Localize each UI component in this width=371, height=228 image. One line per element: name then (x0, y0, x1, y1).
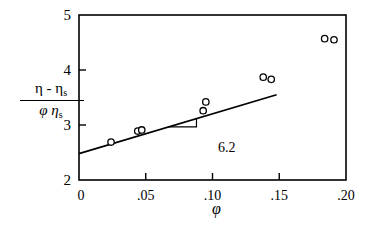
y-label-numerator-text: η - η (35, 80, 63, 96)
y-label-denominator: φ ηs (14, 101, 88, 120)
y-label-denominator-text: φ η (39, 102, 59, 118)
y-tick-label: 5 (64, 7, 72, 23)
data-point (203, 99, 209, 105)
x-tick-label: .05 (137, 188, 155, 203)
x-tick-label: 0 (78, 188, 85, 203)
y-tick-label: 2 (64, 172, 72, 188)
data-point (200, 108, 206, 114)
plot-frame (79, 15, 346, 180)
data-point (268, 76, 274, 82)
x-tick-label: .20 (337, 188, 355, 203)
data-point (108, 139, 114, 145)
data-point (331, 37, 337, 43)
data-point (260, 74, 266, 80)
data-point (321, 35, 327, 41)
y-label-numerator: η - ηs (14, 80, 88, 100)
x-tick-label: .15 (271, 188, 289, 203)
x-axis-label: φ (212, 200, 221, 218)
data-point (139, 127, 145, 133)
y-axis-label: η - ηs φ ηs (14, 80, 88, 120)
y-tick-label: 4 (64, 62, 72, 78)
y-label-denominator-sub: s (59, 109, 63, 120)
y-label-numerator-sub: s (63, 87, 67, 98)
slope-annotation: 6.2 (218, 140, 236, 156)
